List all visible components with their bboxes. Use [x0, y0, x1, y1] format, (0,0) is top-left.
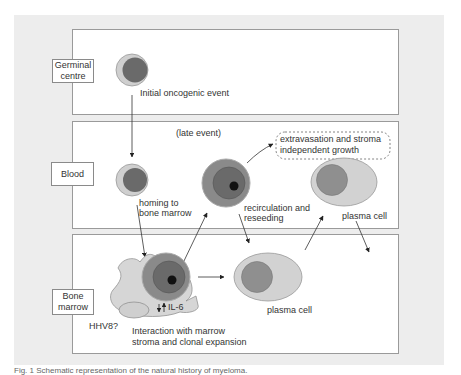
- myeloma-diagram: [0, 0, 461, 375]
- late-event-text: (late event): [176, 128, 221, 139]
- extravasation-text-1: extravasation and stroma: [280, 134, 381, 145]
- recirculation-text-2: reseeding: [244, 213, 284, 224]
- plasma-cell-blood-text: plasma cell: [342, 211, 387, 222]
- blood-plasma-cell-icon: [311, 158, 377, 206]
- blood-b-cell-icon: [116, 164, 148, 196]
- homing-text-2: bone marrow: [139, 208, 192, 219]
- germinal-b-cell-icon: [116, 54, 148, 86]
- interaction-text-2: stroma and clonal expansion: [132, 337, 247, 348]
- marrow-myeloma-cell-icon: [142, 253, 190, 301]
- plasma-cell-marrow-text: plasma cell: [267, 305, 312, 316]
- recirculating-cell-icon: [202, 159, 250, 207]
- hhv8-ellipse-icon: [119, 302, 149, 318]
- marrow-plasma-cell-icon: [234, 253, 302, 301]
- extravasation-text-2: independent growth: [280, 145, 359, 156]
- initial-event-text: Initial oncogenic event: [140, 88, 229, 99]
- hhv8-text: HHV8?: [89, 321, 118, 332]
- interaction-text-1: Interaction with marrow: [132, 326, 225, 337]
- figure-caption: Fig. 1 Schematic representation of the n…: [14, 366, 247, 375]
- il6-text: IL-6: [168, 302, 184, 313]
